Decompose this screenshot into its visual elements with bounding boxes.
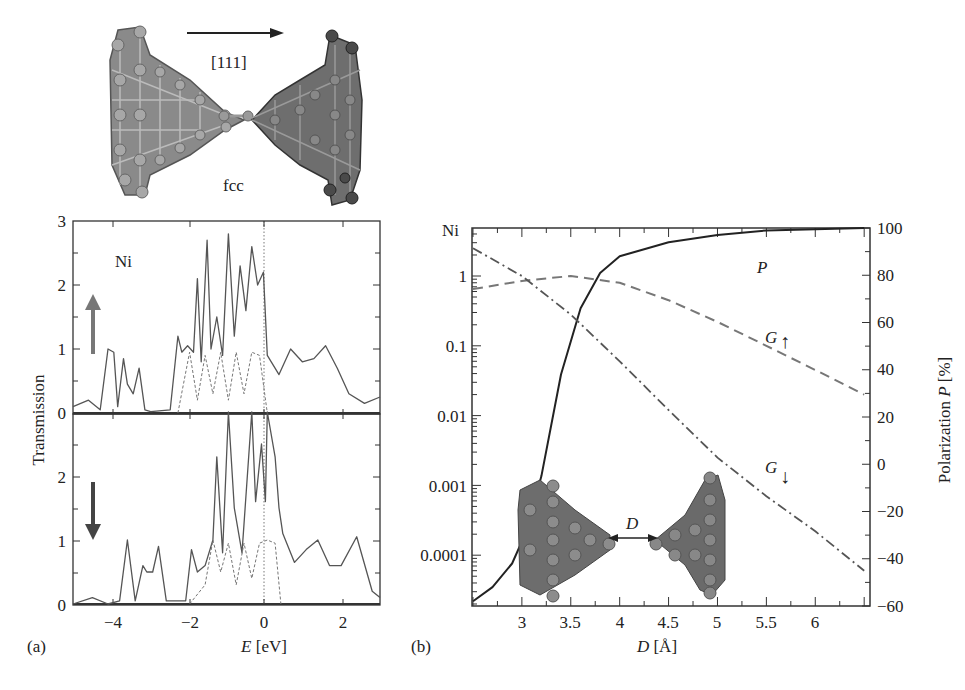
- panel-a-y-tick-labels: 3 2 1 0 2 1 0: [58, 212, 67, 615]
- panel-b-conductance-polarization-chart: D P G ↑ G ↓ Ni 1 0.1 0.01 0.001 0.0001 1…: [400, 210, 965, 690]
- panel-a-label: (a): [27, 637, 46, 656]
- svg-text:1: 1: [459, 267, 468, 286]
- panel-b-right-y-tick-labels: 100 80 60 40 20 0 −20 −40 −60: [877, 219, 904, 616]
- panel-b-element-label: Ni: [442, 221, 459, 240]
- panel-a-y-axis-label: Transmission: [29, 374, 48, 466]
- panel-b-right-y-axis-label: Polarization P [%]: [935, 357, 954, 484]
- svg-text:0.1: 0.1: [446, 337, 467, 356]
- svg-text:0.01: 0.01: [437, 407, 467, 426]
- svg-text:↑: ↑: [780, 330, 790, 352]
- panel-a-transmission-chart: 3 2 1 0 2 1 0 −4 −2 0 2 Transmission E […: [0, 210, 400, 690]
- panel-a-top-plot-frame: [73, 221, 380, 414]
- svg-text:G: G: [765, 328, 777, 347]
- svg-text:5.5: 5.5: [755, 613, 776, 632]
- svg-text:40: 40: [877, 360, 894, 379]
- svg-text:−4: −4: [104, 613, 123, 632]
- svg-text:4.5: 4.5: [657, 613, 678, 632]
- curve-label-p: P: [756, 258, 767, 277]
- svg-text:3: 3: [58, 212, 67, 231]
- svg-text:3: 3: [518, 613, 527, 632]
- svg-text:2: 2: [58, 276, 67, 295]
- svg-text:1: 1: [58, 340, 67, 359]
- svg-text:2: 2: [58, 468, 67, 487]
- svg-text:0: 0: [58, 596, 67, 615]
- panel-a-x-tick-labels: −4 −2 0 2: [104, 613, 347, 632]
- svg-text:0: 0: [260, 613, 269, 632]
- panel-a-spin-down-curves: [73, 412, 380, 604]
- inset-right-electrode: [650, 472, 725, 599]
- svg-text:5: 5: [713, 613, 722, 632]
- direction-label: [111]: [211, 53, 247, 72]
- svg-text:0: 0: [877, 455, 886, 474]
- svg-text:−40: −40: [877, 549, 904, 568]
- nanocontact-structure-illustration: [111] fcc: [0, 0, 965, 215]
- right-electrode-cluster: [252, 30, 362, 205]
- curve-label-g-up: G ↑: [765, 328, 790, 352]
- svg-text:G: G: [765, 458, 777, 477]
- svg-text:−60: −60: [877, 597, 904, 616]
- channel-transmission-curve: [190, 540, 281, 604]
- svg-text:2: 2: [339, 613, 348, 632]
- panel-b-x-axis-label: D [Å]: [636, 637, 677, 656]
- svg-text:60: 60: [877, 313, 894, 332]
- panel-a-x-axis-label: E [eV]: [240, 637, 287, 656]
- svg-text:1: 1: [58, 532, 67, 551]
- spin-up-arrow-icon: [85, 294, 101, 354]
- svg-text:↓: ↓: [780, 465, 790, 487]
- svg-text:0: 0: [58, 404, 67, 423]
- inset-left-electrode: [518, 480, 615, 602]
- panel-b-x-tick-labels: 3 3.5 4 4.5 5 5.5 6: [518, 613, 820, 632]
- svg-text:80: 80: [877, 266, 894, 285]
- svg-text:4: 4: [616, 613, 625, 632]
- total-transmission-curve: [73, 412, 380, 604]
- g-up-conductance-curve: [473, 276, 864, 395]
- inset-distance-label: D: [625, 514, 639, 533]
- svg-text:20: 20: [877, 408, 894, 427]
- curve-label-g-down: G ↓: [765, 458, 790, 487]
- svg-text:6: 6: [811, 613, 820, 632]
- inset-distance-double-arrow-icon: [608, 534, 658, 542]
- svg-text:100: 100: [877, 219, 903, 238]
- panel-b-label: (b): [411, 637, 431, 656]
- panel-b-left-y-tick-labels: 1 0.1 0.01 0.001 0.0001: [420, 267, 467, 565]
- structure-label: fcc: [223, 176, 244, 195]
- svg-text:3.5: 3.5: [559, 613, 580, 632]
- svg-text:0.0001: 0.0001: [420, 546, 467, 565]
- svg-text:−2: −2: [181, 613, 199, 632]
- spin-down-arrow-icon: [85, 482, 101, 540]
- channel-transmission-curve: [178, 352, 267, 413]
- svg-text:−20: −20: [877, 502, 904, 521]
- svg-text:0.001: 0.001: [429, 477, 467, 496]
- panel-a-element-label: Ni: [115, 252, 132, 271]
